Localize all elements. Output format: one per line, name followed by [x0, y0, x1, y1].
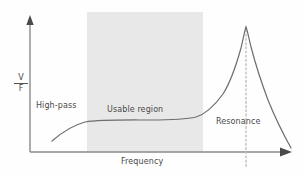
high-pass-label: High-pass	[36, 102, 77, 110]
frequency-response-chart: V F High-pass Usable region Resonance Fr…	[0, 0, 303, 178]
y-axis-denominator: F	[14, 85, 28, 94]
y-axis-arrow-icon	[26, 15, 33, 25]
x-axis-arrow-icon	[280, 148, 292, 157]
y-axis-label: V F	[14, 74, 28, 93]
x-axis-title: Frequency	[121, 158, 163, 166]
chart-canvas	[0, 0, 303, 178]
resonance-label: Resonance	[216, 118, 260, 126]
usable-region-band	[87, 12, 203, 152]
usable-region-label: Usable region	[107, 106, 163, 114]
y-axis-numerator: V	[14, 74, 28, 83]
